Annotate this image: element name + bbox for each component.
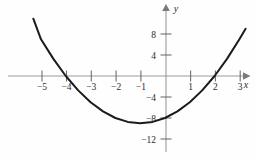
x-tick-label--2: −2 [111,82,121,92]
x-tick-label--3: −3 [86,82,96,92]
y-tick-label-8: 8 [151,30,156,40]
x-axis-label: x [243,79,249,90]
parabola-graph: −5 −4 −3 −2 −1 1 2 3 8 4 −4 −8 −12 x y [0,0,256,162]
parabola-curve [33,19,245,124]
y-tick-label--4: −4 [146,93,156,103]
y-tick-label--12: −12 [141,135,156,145]
x-tick-label--4: −4 [61,82,71,92]
y-axis-arrow-icon [162,4,170,11]
y-tick-label-4: 4 [151,51,156,61]
x-tick-label-2: 2 [213,82,218,92]
x-tick-label-1: 1 [188,82,193,92]
y-axis-label: y [173,3,179,14]
x-tick-label--5: −5 [37,82,47,92]
x-tick-label--1: −1 [136,82,146,92]
coordinate-plot: −5 −4 −3 −2 −1 1 2 3 8 4 −4 −8 −12 x y [0,0,256,162]
x-tick-label-3: 3 [238,82,243,92]
